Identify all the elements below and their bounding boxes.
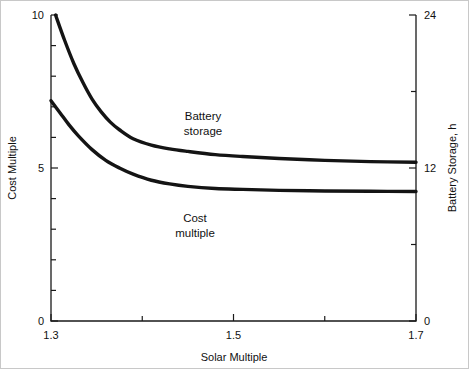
x-axis-title: Solar Multiple	[201, 351, 268, 363]
curve-cost-multiple	[51, 101, 416, 192]
chart-figure: 1050 24120 1.31.51.7 Battery storage Cos…	[0, 0, 469, 369]
annotation-cost-multiple-line2: multiple	[175, 227, 215, 239]
y-right-tick-12: 12	[424, 162, 436, 174]
axis-frame	[51, 15, 416, 321]
y-left-tick-10: 10	[32, 9, 44, 21]
x-tick-1.3: 1.3	[43, 329, 58, 341]
annotation-cost-multiple-line1: Cost	[183, 212, 207, 224]
annotation-battery-storage-line1: Battery	[185, 110, 222, 122]
curve-battery-storage	[56, 15, 416, 162]
y-axis-left-title: Cost Multiple	[6, 136, 18, 200]
annotation-battery-storage-line2: storage	[184, 125, 222, 137]
chart-plot-area: 1050 24120 1.31.51.7 Battery storage Cos…	[1, 1, 469, 369]
y-axis-right-tick-labels: 24120	[424, 9, 436, 327]
x-tick-1.7: 1.7	[408, 329, 423, 341]
x-axis-tick-labels: 1.31.51.7	[43, 329, 423, 341]
y-left-tick-0: 0	[38, 315, 44, 327]
y-axis-left-tick-labels: 1050	[32, 9, 44, 327]
y-axis-left-ticks	[51, 15, 58, 321]
y-left-tick-5: 5	[38, 162, 44, 174]
y-right-tick-0: 0	[424, 315, 430, 327]
x-tick-1.5: 1.5	[226, 329, 241, 341]
y-axis-right-title: Battery Storage, h	[446, 124, 458, 213]
y-right-tick-24: 24	[424, 9, 436, 21]
x-axis-ticks	[51, 314, 416, 321]
y-axis-right-ticks	[409, 15, 416, 321]
